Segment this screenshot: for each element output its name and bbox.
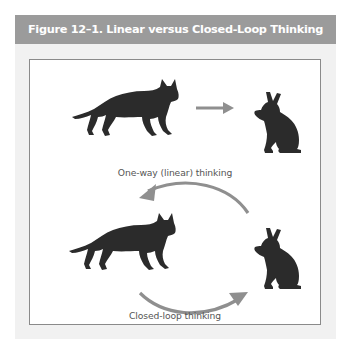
figure-panel: One-way (linear) thinking Closed-loop th… — [29, 59, 321, 325]
diagram-art — [30, 60, 320, 324]
arrow-right-icon — [196, 102, 234, 114]
rabbit-silhouette-loop — [254, 228, 301, 289]
fox-silhouette-loop — [69, 213, 176, 270]
caption-linear: One-way (linear) thinking — [30, 167, 320, 178]
rabbit-silhouette — [254, 92, 301, 153]
figure-title: Figure 12–1. Linear versus Closed-Loop T… — [15, 15, 336, 44]
fox-silhouette — [72, 79, 179, 136]
figure-frame: Figure 12–1. Linear versus Closed-Loop T… — [15, 15, 336, 339]
caption-closed-loop: Closed-loop thinking — [30, 310, 320, 321]
curved-arrow-to-fox-icon — [139, 183, 248, 213]
